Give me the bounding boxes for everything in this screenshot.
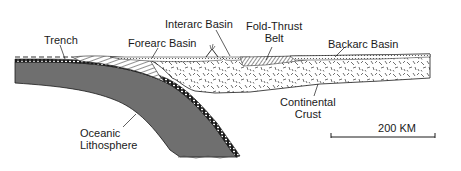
- trench-leader: [60, 45, 65, 59]
- label-fold-thrust-belt: Fold-Thrust Belt: [246, 20, 302, 44]
- label-trench: Trench: [44, 34, 78, 46]
- label-interarc-basin: Interarc Basin: [165, 18, 233, 30]
- forearc-leader: [152, 48, 158, 58]
- continental-crust-leader: [314, 84, 318, 96]
- interarc-leader: [216, 30, 230, 56]
- label-forearc-basin: Forearc Basin: [128, 37, 196, 49]
- label-continental-crust: Continental Crust: [280, 96, 336, 120]
- label-oceanic-lithosphere: Oceanic Lithosphere: [80, 127, 138, 151]
- volcano-icon: [206, 44, 218, 57]
- oceanic-lithosphere-leader: [123, 114, 136, 127]
- label-backarc-basin: Backarc Basin: [328, 38, 398, 50]
- scale-bar-label: 200 KM: [362, 122, 432, 134]
